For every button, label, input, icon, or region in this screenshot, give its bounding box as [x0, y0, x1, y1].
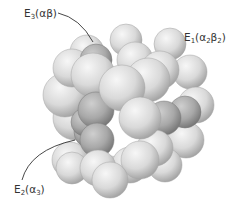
label-e3: E3(αβ)	[24, 8, 57, 21]
label-e1: E1(α2β2)	[184, 32, 226, 45]
subunit-sphere-light	[92, 162, 128, 198]
label-e2: E2(α3)	[14, 184, 45, 197]
subunit-spheres	[43, 24, 214, 198]
subunit-sphere-light	[119, 97, 161, 139]
